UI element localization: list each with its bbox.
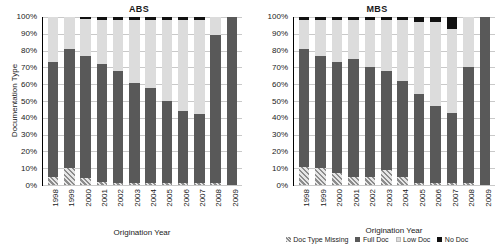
bar-segment-missing xyxy=(348,177,359,185)
stacked-bar[interactable] xyxy=(381,17,392,185)
stacked-bar[interactable] xyxy=(414,17,425,185)
bar-segment-fulldoc xyxy=(397,81,408,177)
chart-legend: Doc Type MissingFull DocLow DocNo Doc xyxy=(251,236,503,243)
bar-slot xyxy=(159,17,175,185)
bar-segment-missing xyxy=(129,183,139,185)
bar-segment-lowdoc xyxy=(447,29,458,113)
legend-item-fulldoc[interactable]: Full Doc xyxy=(355,236,388,243)
bar-segment-fulldoc xyxy=(162,101,172,183)
legend-label: No Doc xyxy=(445,236,468,243)
stacked-bar[interactable] xyxy=(64,17,74,185)
chart-title-mbs: MBS xyxy=(251,4,503,14)
bar-segment-missing xyxy=(162,183,172,185)
bar-segment-lowdoc xyxy=(80,19,90,56)
bar-segment-fulldoc xyxy=(381,71,392,170)
x-tick-slot: 2003 xyxy=(126,188,142,230)
x-tick-label: 2006 xyxy=(183,189,191,207)
x-tick-slot: 2009 xyxy=(477,188,494,230)
x-tick-label: 2006 xyxy=(435,189,443,207)
legend-swatch-missing-icon xyxy=(286,237,291,242)
x-tick-label: 2007 xyxy=(199,189,207,207)
bar-segment-fulldoc xyxy=(463,67,474,183)
legend-item-lowdoc[interactable]: Low Doc xyxy=(396,236,431,243)
stacked-bar[interactable] xyxy=(194,17,204,185)
bar-segment-missing xyxy=(210,183,220,185)
y-tick-label: 20% xyxy=(21,148,37,156)
legend-item-nodoc[interactable]: No Doc xyxy=(437,236,468,243)
bar-slot xyxy=(143,17,159,185)
stacked-bar[interactable] xyxy=(447,17,458,185)
bar-segment-fulldoc xyxy=(227,17,237,185)
stacked-bar[interactable] xyxy=(178,17,188,185)
bar-slot xyxy=(175,17,191,185)
stacked-bar[interactable] xyxy=(162,17,172,185)
stacked-bar[interactable] xyxy=(332,17,343,185)
bar-segment-lowdoc xyxy=(315,20,326,55)
x-tick-label: 2005 xyxy=(166,189,174,207)
bar-segment-missing xyxy=(64,168,74,185)
x-tick-slot: 2002 xyxy=(361,188,378,230)
x-tick-label: 2003 xyxy=(386,189,394,207)
stacked-bar[interactable] xyxy=(129,17,139,185)
bar-segment-fulldoc xyxy=(178,111,188,183)
stacked-bar[interactable] xyxy=(315,17,326,185)
legend-label: Doc Type Missing xyxy=(293,236,348,243)
x-tick-label: 1998 xyxy=(52,189,60,207)
x-tick-slot: 2001 xyxy=(345,188,362,230)
x-tick-slot: 2000 xyxy=(77,188,93,230)
bar-segment-fulldoc xyxy=(80,56,90,179)
y-axis-ticks-mbs: 100%90%80%70%60%50%40%30%20%10%0% xyxy=(251,17,291,186)
x-tick-label: 2008 xyxy=(468,189,476,207)
stacked-bar[interactable] xyxy=(113,17,123,185)
x-tick-slot: 2005 xyxy=(411,188,428,230)
stacked-bar[interactable] xyxy=(480,17,491,185)
bar-segment-missing xyxy=(365,177,376,185)
x-tick-slot: 2005 xyxy=(158,188,174,230)
stacked-bar[interactable] xyxy=(348,17,359,185)
stacked-bar[interactable] xyxy=(97,17,107,185)
x-tick-label: 2009 xyxy=(485,189,493,207)
bar-segment-fulldoc xyxy=(48,62,58,176)
bar-segment-fulldoc xyxy=(480,17,491,185)
bar-slot xyxy=(126,17,142,185)
legend-item-missing[interactable]: Doc Type Missing xyxy=(286,236,349,243)
stacked-bar[interactable] xyxy=(145,17,155,185)
bar-segment-lowdoc xyxy=(162,20,172,101)
stacked-bar[interactable] xyxy=(365,17,376,185)
y-tick-label: 10% xyxy=(272,165,288,173)
gridline xyxy=(294,185,495,186)
bar-segment-lowdoc xyxy=(414,22,425,94)
y-tick-label: 90% xyxy=(21,30,37,38)
bar-segment-missing xyxy=(447,183,458,185)
bar-slot xyxy=(296,17,312,185)
x-tick-label: 2000 xyxy=(336,189,344,207)
x-tick-slot: 2003 xyxy=(378,188,395,230)
y-tick-label: 50% xyxy=(21,98,37,106)
bar-segment-lowdoc xyxy=(397,20,408,80)
bar-segment-fulldoc xyxy=(145,88,155,184)
bar-slot xyxy=(395,17,411,185)
bar-segment-fulldoc xyxy=(210,35,220,183)
bar-segment-lowdoc xyxy=(97,20,107,64)
y-tick-label: 100% xyxy=(268,13,288,21)
stacked-bar[interactable] xyxy=(397,17,408,185)
legend-swatch-nodoc-icon xyxy=(437,237,442,242)
bar-segment-lowdoc xyxy=(365,20,376,67)
stacked-bar[interactable] xyxy=(48,17,58,185)
y-tick-label: 30% xyxy=(21,131,37,139)
y-tick-label: 10% xyxy=(21,165,37,173)
plot-area-abs xyxy=(42,17,242,186)
stacked-bar[interactable] xyxy=(80,17,90,185)
stacked-bar[interactable] xyxy=(210,17,220,185)
bar-slot xyxy=(345,17,361,185)
x-tick-slot: 2001 xyxy=(93,188,109,230)
x-tick-slot: 2009 xyxy=(224,188,240,230)
bar-segment-fulldoc xyxy=(97,64,107,182)
stacked-bar[interactable] xyxy=(299,17,310,185)
x-tick-label: 2000 xyxy=(85,189,93,207)
stacked-bar[interactable] xyxy=(463,17,474,185)
x-tick-slot: 2007 xyxy=(444,188,461,230)
stacked-bar[interactable] xyxy=(430,17,441,185)
bar-segment-fulldoc xyxy=(348,59,359,177)
stacked-bar[interactable] xyxy=(227,17,237,185)
